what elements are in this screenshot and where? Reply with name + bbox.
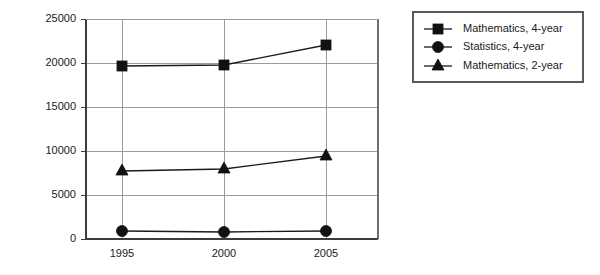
xtick-label-2005: 2005 [314,247,338,259]
ytick-label-10000: 10000 [45,144,76,156]
chart-figure: 25000 20000 15000 10000 5000 0 1995 2000… [0,0,600,275]
legend-label-stats-4yr: Statistics, 4-year [463,40,545,52]
ytick-label-15000: 15000 [45,100,76,112]
data-point-math-4yr-2000 [219,60,229,70]
ytick-label-20000: 20000 [45,56,76,68]
data-point-stats-4yr-1995 [117,226,128,237]
xtick-label-1995: 1995 [110,247,134,259]
data-point-stats-4yr-2000 [219,227,230,238]
xtick-label-2000: 2000 [212,247,236,259]
ytick-label-25000: 25000 [45,12,76,24]
legend-label-math-2yr: Mathematics, 2-year [463,59,563,71]
circle-marker-icon [433,42,444,53]
chart-legend: Mathematics, 4-year Statistics, 4-year M… [413,12,583,82]
data-point-stats-4yr-2005 [321,226,332,237]
data-point-math-4yr-2005 [321,40,331,50]
data-point-math-4yr-1995 [117,61,127,71]
ytick-label-0: 0 [70,232,76,244]
line-chart-svg: 25000 20000 15000 10000 5000 0 1995 2000… [0,0,600,275]
square-marker-icon [433,24,443,34]
ytick-label-5000: 5000 [52,188,76,200]
legend-label-math-4yr: Mathematics, 4-year [463,22,563,34]
